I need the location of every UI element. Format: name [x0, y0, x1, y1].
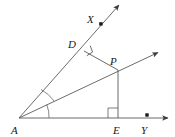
right-angle-mark-at-E: [108, 108, 118, 118]
label-A: A: [10, 124, 18, 136]
right-angle-mark-at-D: [87, 46, 94, 57]
label-Y: Y: [141, 124, 149, 136]
figure-canvas: A D X P E Y: [0, 0, 175, 137]
label-D: D: [67, 38, 76, 50]
angle-arc-PAE: [47, 105, 49, 119]
point-Y-dot: [145, 113, 148, 116]
ray-AX: [19, 5, 119, 118]
point-X-dot: [99, 22, 102, 25]
geometry-figure: A D X P E Y: [0, 0, 175, 137]
label-E: E: [112, 124, 120, 136]
ray-AP: [19, 53, 158, 119]
label-X: X: [86, 13, 95, 25]
label-P: P: [109, 55, 117, 67]
